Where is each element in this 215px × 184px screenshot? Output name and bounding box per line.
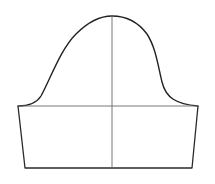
sleeve-body-outline	[18, 106, 198, 168]
sleeve-pattern-diagram	[0, 0, 215, 184]
sleeve-cap-curve	[18, 16, 198, 106]
